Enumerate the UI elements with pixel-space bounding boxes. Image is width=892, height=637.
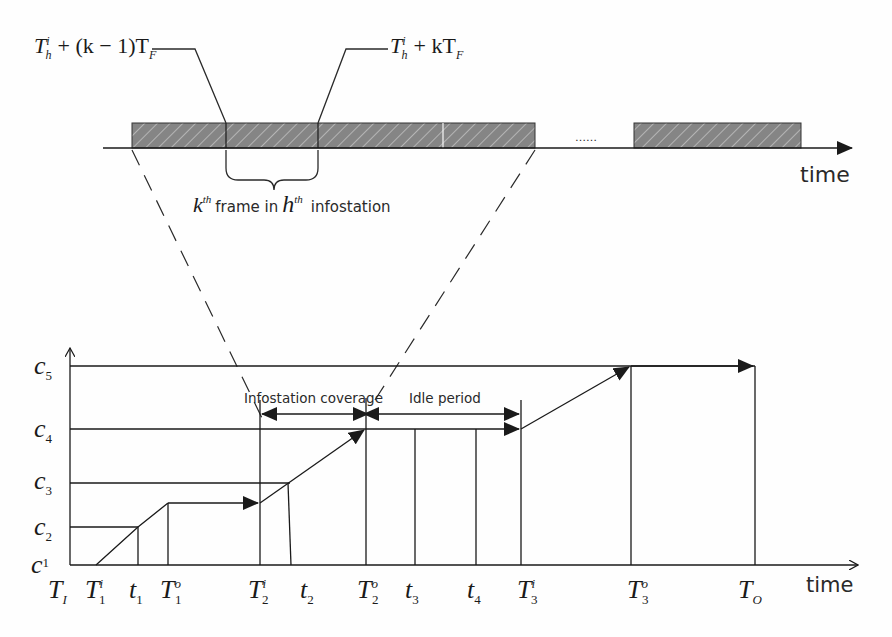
- bottom-time-axis-label: time: [806, 573, 853, 597]
- svg-text:To2: To2: [357, 575, 378, 607]
- svg-text:c1: c1: [31, 550, 49, 579]
- infostation-timing-diagram: Tih+ (k − 1)TF Tih+ kTF …… time kthframe…: [0, 0, 892, 637]
- svg-text:TO: TO: [738, 575, 762, 607]
- svg-text:t4: t4: [467, 575, 481, 607]
- y-level-labels: c5 c4 c3 c2 c1: [31, 351, 53, 579]
- svg-text:c3: c3: [34, 466, 52, 498]
- svg-text:Ti2: Ti2: [248, 575, 269, 607]
- ellipsis: ……: [575, 131, 597, 144]
- svg-text:To3: To3: [627, 575, 648, 607]
- leader-line-start: [152, 49, 226, 123]
- svg-text:c2: c2: [34, 512, 52, 544]
- trajectory-segment-3: [260, 430, 364, 503]
- svg-text:c4: c4: [34, 414, 53, 446]
- svg-text:To1: To1: [160, 575, 181, 607]
- idle-label: Idle period: [409, 390, 481, 406]
- svg-text:Ti3: Ti3: [517, 575, 538, 607]
- svg-text:t1: t1: [129, 575, 143, 607]
- zoom-guide-left: [132, 150, 262, 418]
- frame-label: kthframe inhthinfostation: [193, 191, 391, 217]
- svg-text:c5: c5: [34, 351, 52, 383]
- top-time-axis-label: time: [800, 162, 850, 187]
- coverage-label: Infostation coverage: [244, 390, 383, 406]
- zoom-guide-right: [375, 150, 535, 400]
- trajectory-segment-5: [521, 367, 629, 429]
- vline-t2: [288, 483, 291, 565]
- svg-text:t2: t2: [300, 575, 314, 607]
- infostation-bar-1: [132, 123, 535, 148]
- frame-brace: [226, 150, 318, 190]
- bottom-chart: [70, 348, 858, 565]
- svg-text:TI: TI: [48, 575, 67, 607]
- infostation-bar-2: [634, 123, 801, 148]
- top-timeline: Tih+ (k − 1)TF Tih+ kTF …… time kthframe…: [34, 33, 852, 418]
- trajectory-segment-1: [96, 503, 168, 565]
- leader-line-end: [318, 49, 388, 123]
- svg-text:Ti1: Ti1: [85, 575, 106, 607]
- x-tick-labels: TI Ti1 t1 To1 Ti2 t2 To2 t3 t4 Ti3 To3 T…: [48, 575, 762, 607]
- svg-text:t3: t3: [405, 575, 419, 607]
- formula-frame-start: Tih+ (k − 1)TF: [34, 33, 157, 62]
- formula-frame-end: Tih+ kTF: [390, 33, 464, 62]
